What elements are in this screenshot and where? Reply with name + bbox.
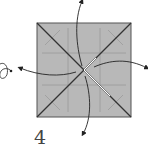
turn-over-loop-icon — [0, 63, 11, 78]
loop-arrow-tip-icon — [10, 70, 13, 73]
step-number: 4 — [34, 128, 46, 147]
origami-diagram — [0, 0, 148, 152]
